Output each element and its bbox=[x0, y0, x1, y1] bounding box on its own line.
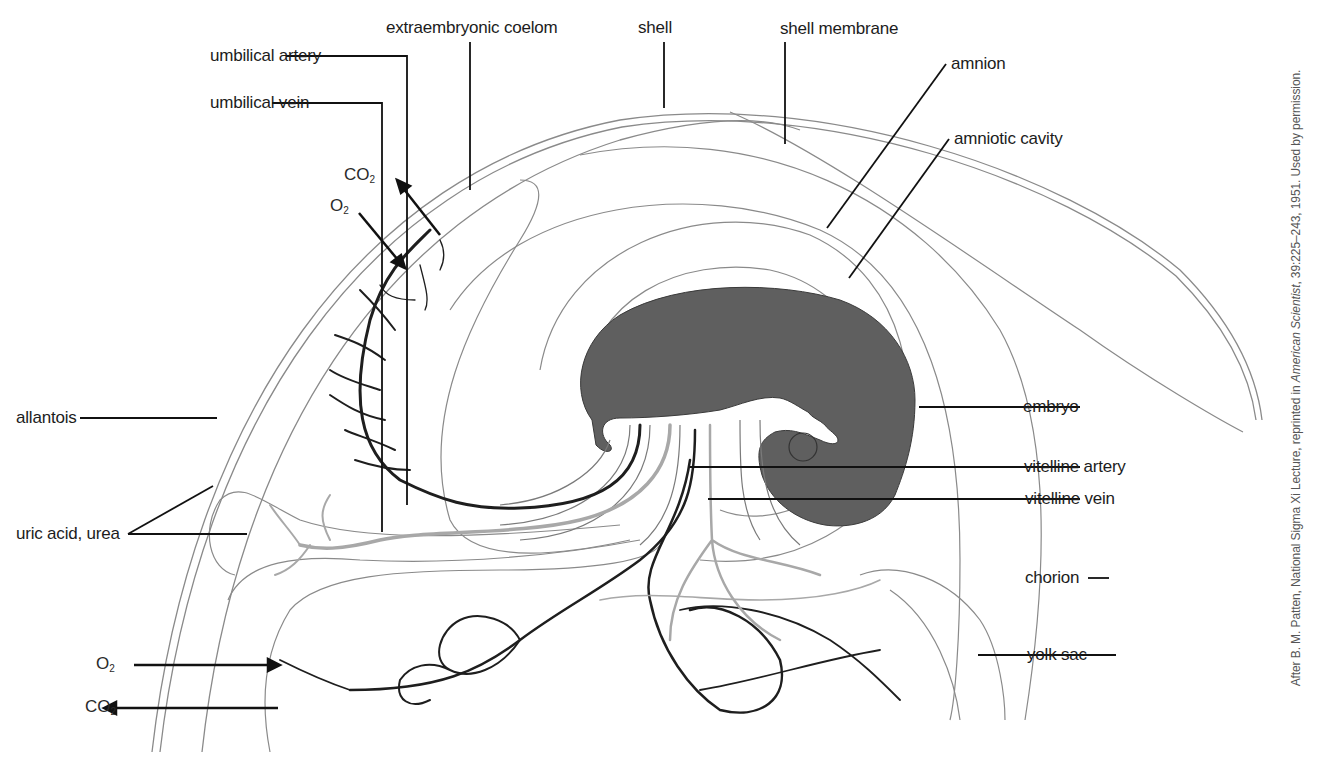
label-embryo: embryo bbox=[1023, 398, 1079, 415]
label-amnion: amnion bbox=[951, 55, 1006, 72]
figure-credit: After B. M. Patten, National Sigma Xi Le… bbox=[1289, 70, 1303, 687]
label-amniotic-cavity: amniotic cavity bbox=[954, 130, 1062, 147]
label-shell: shell bbox=[638, 19, 672, 36]
label-chorion: chorion bbox=[1025, 569, 1079, 586]
embryo-shape bbox=[581, 287, 915, 526]
gas-label-o2-top: O2 bbox=[330, 197, 349, 216]
label-umbilical-artery: umbilical artery bbox=[210, 47, 321, 64]
egg-diagram: extraembryonic coelom shell shell membra… bbox=[0, 0, 1322, 757]
label-umbilical-vein: umbilical vein bbox=[210, 94, 309, 111]
label-yolk-sac: yolk sac bbox=[1027, 646, 1087, 663]
gas-label-co2-top: CO2 bbox=[344, 166, 375, 185]
label-vitelline-vein: vitelline vein bbox=[1025, 490, 1115, 507]
diagram-artwork bbox=[0, 0, 1322, 757]
label-uric-acid-urea: uric acid, urea bbox=[16, 525, 120, 542]
label-allantois: allantois bbox=[16, 409, 77, 426]
gas-label-co2-bottom: CO2 bbox=[85, 698, 116, 717]
gas-label-o2-bottom: O2 bbox=[96, 655, 115, 674]
shell-lines bbox=[152, 114, 1262, 752]
label-vitelline-artery: vitelline artery bbox=[1024, 458, 1126, 475]
label-shell-membrane: shell membrane bbox=[780, 20, 898, 37]
label-extraembryonic-coelom: extraembryonic coelom bbox=[386, 19, 558, 36]
